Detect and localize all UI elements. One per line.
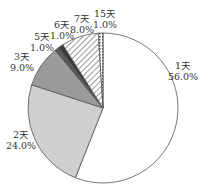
- pie-slices: [28, 33, 178, 183]
- label-7day-name: 7天: [74, 13, 90, 24]
- label-3day-name: 3天: [14, 51, 30, 62]
- label-5day-pct: 1.0%: [30, 42, 54, 53]
- pie-chart: 1天 56.0% 2天 24.0% 3天 9.0% 5天 1.0% 6天 1.0…: [0, 0, 202, 192]
- label-7day-pct: 8.0%: [70, 24, 94, 35]
- label-15day-pct: 1.0%: [93, 19, 117, 30]
- pie-svg: 1天 56.0% 2天 24.0% 3天 9.0% 5天 1.0% 6天 1.0…: [0, 0, 202, 192]
- label-3day-pct: 9.0%: [10, 62, 34, 73]
- label-5day-name: 5天: [34, 31, 50, 42]
- label-6day-name: 6天: [54, 19, 70, 30]
- label-15day-name: 15天: [94, 8, 116, 19]
- label-2day-name: 2天: [13, 129, 29, 140]
- label-2day-pct: 24.0%: [6, 140, 36, 151]
- label-1day-name: 1天: [175, 60, 191, 71]
- label-1day-pct: 56.0%: [168, 71, 198, 82]
